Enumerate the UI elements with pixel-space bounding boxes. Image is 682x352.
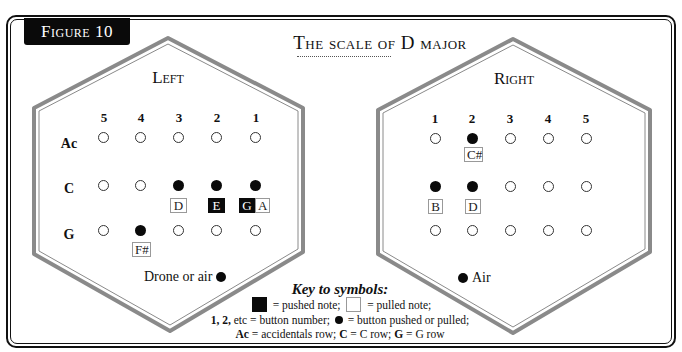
g-key: G — [394, 328, 403, 340]
drone-air-label: Drone or air — [144, 269, 212, 285]
column-number: 5 — [576, 111, 596, 127]
column-number: 3 — [500, 111, 520, 127]
right-ac-button-3 — [505, 133, 516, 144]
c-description: = C row; — [350, 328, 391, 340]
ac-description: = accidentals row; — [252, 328, 336, 340]
right-ac-button-1 — [430, 133, 441, 144]
note-c-sharp-pulled: C# — [464, 147, 483, 162]
right-g-button-1 — [430, 225, 441, 236]
note-b-pulled: B — [428, 199, 443, 214]
left-g-button-2 — [211, 225, 222, 236]
column-number: 2 — [207, 110, 227, 126]
pulled-swatch-icon — [346, 297, 361, 312]
left-c-button-4 — [135, 180, 146, 191]
right-ac-button-4 — [543, 133, 554, 144]
figure-label: Figure 10 — [24, 18, 130, 45]
ac-key: Ac — [236, 328, 249, 340]
right-c-button-5 — [581, 181, 592, 192]
key-line-1: = pushed note; = pulled note; — [160, 297, 520, 312]
left-ac-button-1 — [250, 132, 261, 143]
title-underline — [297, 56, 391, 57]
note-e-pushed: E — [208, 198, 225, 213]
drone-air-button-icon — [216, 272, 226, 282]
pulled-description: = pulled note; — [367, 299, 431, 311]
right-ac-button-2 — [467, 133, 478, 144]
left-ac-button-2 — [211, 132, 222, 143]
left-ac-button-5 — [98, 132, 109, 143]
key-title: Key to symbols: — [250, 281, 430, 298]
column-number: 5 — [94, 110, 114, 126]
column-number: 2 — [462, 111, 482, 127]
air-label: Air — [472, 270, 491, 286]
right-g-button-3 — [505, 225, 516, 236]
right-c-button-1 — [430, 181, 441, 192]
row-label-ac: Ac — [54, 136, 84, 152]
note-d-pulled-right: D — [465, 199, 481, 214]
row-label-c: C — [54, 181, 84, 197]
right-air: Air — [458, 270, 491, 286]
key-line-2: 1, 2, etc = button number; = button push… — [160, 314, 520, 326]
right-c-button-4 — [543, 181, 554, 192]
numbers-description: etc = button number; — [234, 314, 330, 326]
column-number: 4 — [131, 110, 151, 126]
note-g-pushed: G — [239, 198, 255, 213]
air-button-icon — [458, 273, 468, 283]
column-number: 1 — [425, 111, 445, 127]
column-number: 3 — [169, 110, 189, 126]
left-c-button-1 — [250, 180, 261, 191]
left-g-button-5 — [98, 225, 109, 236]
left-drone-air: Drone or air — [144, 269, 226, 285]
note-d-pulled: D — [170, 198, 187, 213]
left-side-title: Left — [128, 68, 208, 88]
row-label-g: G — [54, 227, 84, 243]
left-c-button-5 — [98, 180, 109, 191]
right-c-button-3 — [505, 181, 516, 192]
g-description: = G row — [406, 328, 444, 340]
left-ac-button-4 — [135, 132, 146, 143]
pushed-description: = pushed note; — [273, 299, 341, 311]
dot-description: = button pushed or pulled; — [348, 314, 469, 326]
left-ac-button-3 — [173, 132, 184, 143]
c-key: C — [339, 328, 347, 340]
left-c-button-3 — [173, 180, 184, 191]
right-c-button-2 — [467, 181, 478, 192]
right-g-button-4 — [543, 225, 554, 236]
right-g-button-5 — [581, 225, 592, 236]
page-title: The scale of D major — [230, 32, 530, 54]
note-a-pulled: A — [255, 198, 270, 213]
left-c-button-2 — [211, 180, 222, 191]
right-g-button-2 — [467, 225, 478, 236]
note-f-sharp-pulled: F# — [132, 242, 151, 257]
left-g-button-3 — [173, 225, 184, 236]
right-side-title: Right — [474, 69, 554, 89]
column-number: 4 — [538, 111, 558, 127]
key-line-3: Ac = accidentals row; C = C row; G = G r… — [160, 328, 520, 340]
right-ac-button-5 — [581, 133, 592, 144]
numbers-key: 1, 2, — [211, 314, 231, 326]
column-number: 1 — [246, 110, 266, 126]
button-dot-icon — [335, 316, 343, 324]
pushed-swatch-icon — [252, 297, 267, 312]
left-g-button-1 — [250, 225, 261, 236]
left-g-button-4 — [135, 225, 146, 236]
